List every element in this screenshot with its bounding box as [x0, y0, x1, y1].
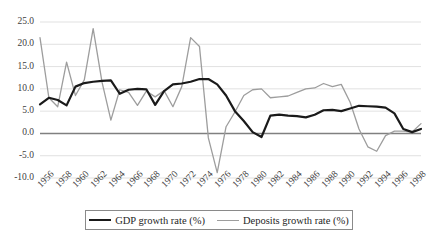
- y-tick-label: 10.0: [0, 84, 34, 94]
- y-tick-label: 20.0: [0, 39, 34, 49]
- chart-legend: GDP growth rate (%) Deposits growth rate…: [85, 210, 353, 230]
- series-line-gdp: [40, 79, 421, 137]
- data-series-group: [40, 29, 421, 173]
- y-tick-label: -10.0: [0, 173, 34, 183]
- y-tick-label: 15.0: [0, 62, 34, 72]
- y-tick-label: 5.0: [0, 106, 34, 116]
- chart-plot-area: [0, 0, 436, 242]
- legend-line-swatch-deposits-icon: [217, 220, 239, 221]
- chart-container: 25.020.015.010.05.00.0-5.0-10.0 19561958…: [0, 0, 436, 242]
- legend-item-gdp: GDP growth rate (%): [89, 215, 205, 226]
- y-tick-label: 0.0: [0, 128, 34, 138]
- y-tick-label: -5.0: [0, 151, 34, 161]
- legend-label-deposits: Deposits growth rate (%): [243, 215, 349, 226]
- y-tick-label: 25.0: [0, 17, 34, 27]
- series-line-deposits: [40, 29, 421, 173]
- gridlines: [40, 22, 421, 178]
- legend-line-swatch-gdp-icon: [89, 219, 111, 221]
- legend-item-deposits: Deposits growth rate (%): [217, 215, 349, 226]
- legend-label-gdp: GDP growth rate (%): [115, 215, 205, 226]
